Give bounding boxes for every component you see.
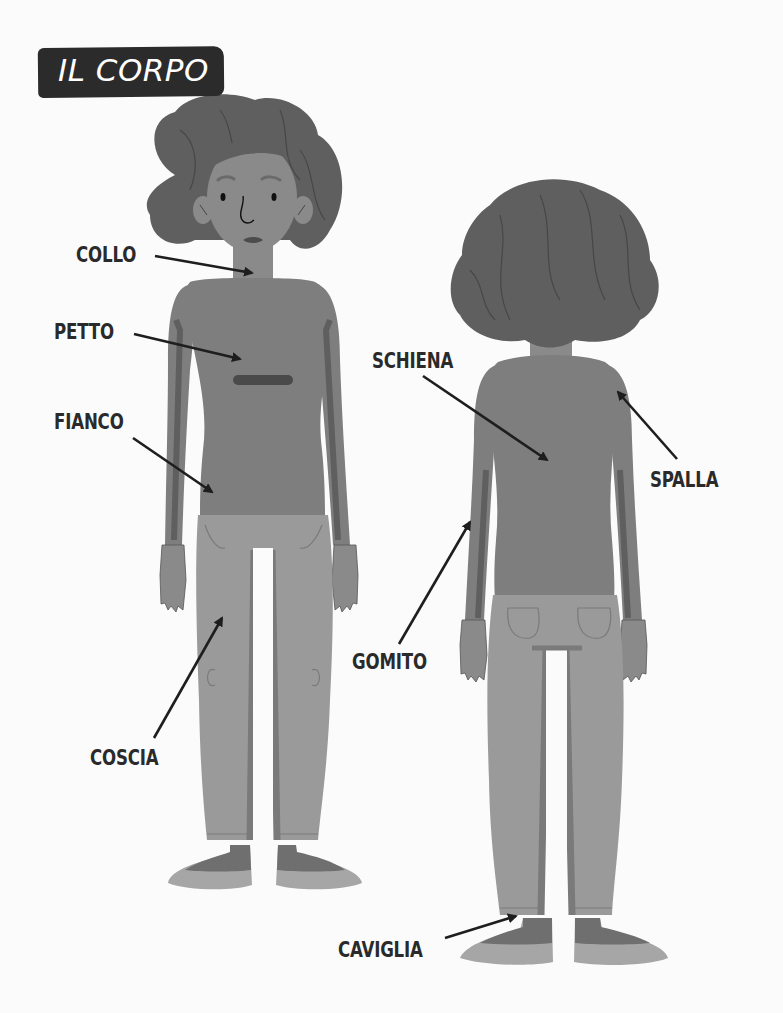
back-figure bbox=[451, 179, 668, 965]
label-petto: PETTO bbox=[54, 320, 114, 344]
label-collo: COLLO bbox=[76, 243, 136, 267]
back-shirt bbox=[488, 355, 618, 600]
arrow-gomito bbox=[399, 522, 470, 644]
label-fianco: FIANCO bbox=[54, 410, 124, 434]
front-shirt bbox=[186, 278, 333, 520]
front-right-hand bbox=[332, 545, 358, 612]
page-title: IL CORPO bbox=[58, 52, 209, 88]
label-coscia: COSCIA bbox=[90, 746, 159, 770]
back-hair bbox=[451, 179, 659, 347]
body-illustration bbox=[0, 0, 783, 1013]
front-figure bbox=[147, 94, 362, 889]
label-schiena: SCHIENA bbox=[372, 349, 453, 373]
label-spalla: SPALLA bbox=[650, 468, 718, 492]
front-left-hand bbox=[160, 545, 186, 612]
back-right-hand bbox=[620, 620, 647, 682]
label-caviglia: CAVIGLIA bbox=[338, 938, 423, 962]
label-gomito: GOMITO bbox=[352, 650, 427, 674]
back-left-hand bbox=[460, 620, 487, 682]
